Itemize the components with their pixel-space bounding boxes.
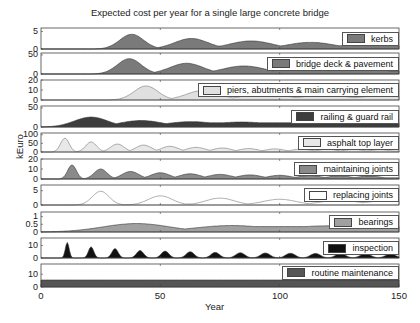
y-tick-label: 0 bbox=[10, 228, 38, 237]
legend-kerbs: kerbs bbox=[342, 32, 399, 46]
x-axis-label: Year bbox=[205, 301, 224, 312]
x-tick-100: 100 bbox=[272, 290, 288, 301]
legend-asphalt-top-layer: asphalt top layer bbox=[298, 136, 399, 150]
y-tick-label: 5 bbox=[10, 186, 38, 195]
legend-label: piers, abutments & main carrying element bbox=[227, 85, 393, 95]
legend-inspection: inspection bbox=[323, 241, 399, 255]
area-series bbox=[41, 280, 399, 287]
legend-label: routine maintenance bbox=[311, 268, 393, 278]
y-tick-label: 0 bbox=[10, 283, 38, 292]
y-tick-label: 5 bbox=[10, 27, 38, 36]
legend-bearings: bearings bbox=[329, 215, 399, 229]
legend-label: inspection bbox=[352, 243, 393, 253]
legend-swatch-icon bbox=[334, 218, 352, 227]
legend-label: bearings bbox=[358, 217, 393, 227]
legend-label: railing & guard rail bbox=[320, 112, 393, 122]
legend-swatch-icon bbox=[303, 138, 321, 147]
x-tick-150: 150 bbox=[391, 290, 407, 301]
x-tick-50: 50 bbox=[155, 290, 166, 301]
y-tick-label: 50 bbox=[10, 103, 38, 112]
legend-swatch-icon bbox=[347, 34, 365, 43]
legend-maintaining-joints: maintaining joints bbox=[294, 162, 399, 176]
legend-routine-maintenance: routine maintenance bbox=[282, 266, 399, 280]
y-tick-label: 10 bbox=[10, 270, 38, 279]
y-tick-label: 50 bbox=[10, 50, 38, 59]
legend-label: asphalt top layer bbox=[327, 138, 393, 148]
legend-swatch-icon bbox=[309, 191, 327, 200]
legend-label: kerbs bbox=[371, 34, 393, 44]
y-tick-label: 0 bbox=[10, 201, 38, 210]
chart-title: Expected cost per year for a single larg… bbox=[0, 7, 420, 18]
y-tick-label: 10 bbox=[10, 86, 38, 95]
legend-swatch-icon bbox=[296, 112, 314, 121]
legend-railing-guard-rail: railing & guard rail bbox=[291, 110, 399, 124]
legend-piers-abutments-main-carrying-element: piers, abutments & main carrying element bbox=[198, 83, 399, 97]
y-tick-label: 20 bbox=[10, 76, 38, 85]
legend-swatch-icon bbox=[272, 59, 290, 68]
legend-swatch-icon bbox=[299, 165, 317, 174]
y-tick-label: 0 bbox=[10, 175, 38, 184]
y-tick-label: 0 bbox=[10, 254, 38, 263]
legend-swatch-icon bbox=[328, 244, 346, 253]
y-tick-label: 10 bbox=[10, 241, 38, 250]
x-tick-0: 0 bbox=[38, 290, 43, 301]
legend-replacing-joints: replacing joints bbox=[304, 188, 399, 202]
y-tick-label: 10 bbox=[10, 165, 38, 174]
legend-label: bridge deck & pavement bbox=[296, 59, 393, 69]
legend-label: maintaining joints bbox=[323, 164, 393, 174]
legend-swatch-icon bbox=[287, 268, 305, 277]
legend-label: replacing joints bbox=[333, 190, 393, 200]
y-tick-label: 20 bbox=[10, 155, 38, 164]
legend-bridge-deck-pavement: bridge deck & pavement bbox=[267, 57, 399, 71]
legend-swatch-icon bbox=[203, 86, 221, 95]
